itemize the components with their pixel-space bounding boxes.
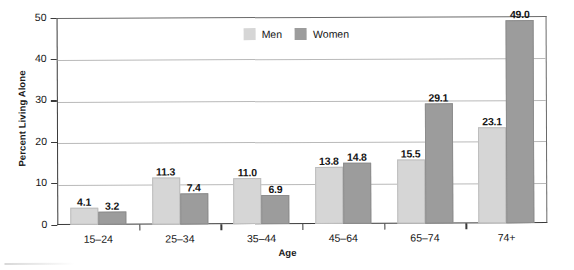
bar-men-74+[interactable]: 23.1 — [478, 128, 506, 224]
legend-item-women[interactable]: Women — [295, 28, 349, 40]
y-axis-ticks: 01020304050 — [0, 0, 573, 1]
bar-value-label: 14.8 — [347, 150, 367, 162]
y-tick-label: 40 — [35, 52, 47, 64]
y-tick-label: 50 — [35, 10, 47, 22]
x-axis-tick — [139, 225, 140, 231]
x-axis-label: 45–64 — [329, 232, 358, 244]
x-axis-label: 74+ — [498, 231, 516, 243]
bar-women-25_34[interactable]: 7.4 — [180, 194, 208, 225]
bar-value-label: 13.8 — [319, 155, 339, 167]
legend-swatch-men — [244, 28, 256, 40]
y-tick-label: 10 — [35, 176, 47, 188]
bar-value-label: 15.5 — [401, 147, 421, 159]
bar-value-label: 23.1 — [482, 116, 502, 128]
bar-value-label: 4.1 — [77, 196, 91, 208]
bar-value-label: 6.9 — [268, 183, 282, 195]
bar-group: 4.13.2 — [69, 18, 126, 225]
y-axis-tick: 20 — [0, 142, 57, 143]
x-axis-label: 35–44 — [247, 232, 276, 244]
x-axis-label: 15–24 — [84, 233, 113, 245]
chart-legend: MenWomen — [244, 28, 349, 40]
bar-men-35_44[interactable]: 11.0 — [233, 179, 261, 225]
bar-group: 15.529.1 — [396, 16, 453, 223]
legend-label: Women — [313, 28, 349, 40]
y-axis-tick: 10 — [0, 183, 57, 184]
legend-item-men[interactable]: Men — [244, 28, 282, 40]
bar-women-74+[interactable]: 49.0 — [506, 20, 535, 223]
bar-value-label: 11.0 — [238, 167, 257, 179]
x-axis-tick — [221, 224, 222, 230]
bar-chart: Percent Living Alone 01020304050 4.13.21… — [0, 0, 574, 270]
y-axis-tick: 50 — [0, 18, 57, 19]
y-tick-label: 20 — [35, 135, 47, 147]
bar-women-15_24[interactable]: 3.2 — [98, 211, 126, 224]
bar-value-label: 3.2 — [105, 199, 119, 211]
bar-men-15_24[interactable]: 4.1 — [70, 208, 98, 225]
bar-value-label: 29.1 — [429, 91, 449, 103]
y-tick-label: 0 — [41, 217, 47, 229]
x-axis-tick — [384, 224, 385, 230]
y-axis-title: Percent Living Alone — [16, 38, 28, 198]
x-axis-ticks: 15–2425–3435–4445–6465–7474+ — [0, 0, 573, 1]
x-axis-tick — [466, 223, 467, 229]
y-axis-tick: 30 — [0, 101, 57, 102]
bar-women-65_74[interactable]: 29.1 — [424, 103, 452, 224]
bars-layer: 4.13.211.37.411.06.913.814.815.529.123.1… — [57, 16, 548, 225]
bar-women-45_64[interactable]: 14.8 — [343, 162, 371, 223]
bar-group: 23.149.0 — [478, 16, 535, 223]
bar-value-label: 49.0 — [510, 8, 530, 20]
y-axis-tick: 0 — [0, 225, 57, 226]
x-axis-title: Age — [0, 246, 574, 259]
x-axis-label: 65–74 — [410, 231, 439, 243]
bar-group: 13.814.8 — [314, 17, 371, 224]
legend-swatch-women — [295, 28, 307, 40]
bar-men-25_34[interactable]: 11.3 — [152, 178, 180, 225]
y-axis-tick: 40 — [0, 59, 57, 60]
x-axis-label: 25–34 — [165, 232, 194, 244]
bar-value-label: 11.3 — [156, 166, 175, 178]
bar-group: 11.37.4 — [151, 17, 208, 224]
bar-women-35_44[interactable]: 6.9 — [261, 195, 289, 224]
bar-men-45_64[interactable]: 13.8 — [315, 167, 343, 224]
bar-value-label: 7.4 — [187, 182, 201, 194]
bar-group: 11.06.9 — [233, 17, 290, 224]
legend-label: Men — [262, 28, 282, 40]
x-axis-tick — [302, 224, 303, 230]
y-tick-label: 30 — [35, 93, 47, 105]
bar-men-65_74[interactable]: 15.5 — [397, 159, 425, 223]
scan-artifact — [4, 263, 74, 265]
